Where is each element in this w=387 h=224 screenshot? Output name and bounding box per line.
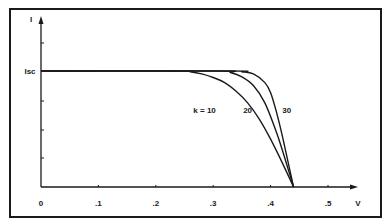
- x-axis-label: V: [355, 199, 361, 208]
- x-tick-label: .3: [210, 199, 217, 208]
- x-axis-arrow-icon: [350, 185, 358, 190]
- x-tick-label: .1: [95, 199, 102, 208]
- curves: [41, 71, 294, 187]
- x-tick-label: .5: [325, 199, 332, 208]
- curve-label-k-20: 20: [243, 106, 252, 115]
- isc-label: Isc: [24, 67, 36, 76]
- x-tick-label: .2: [152, 199, 159, 208]
- axes: [39, 16, 359, 190]
- labels: 0.1.2.3.4.5IVIsck = 102030: [24, 15, 361, 208]
- curve-label-k-30: 30: [282, 106, 291, 115]
- curve-label-k-10: k = 10: [193, 106, 216, 115]
- y-axis-arrow-icon: [39, 16, 44, 24]
- x-tick-label: .4: [267, 199, 274, 208]
- curve-k-20: [41, 71, 294, 187]
- iv-curve-chart: 0.1.2.3.4.5IVIsck = 102030: [0, 0, 387, 224]
- x-tick-label: 0: [39, 199, 44, 208]
- y-axis-label: I: [30, 15, 32, 24]
